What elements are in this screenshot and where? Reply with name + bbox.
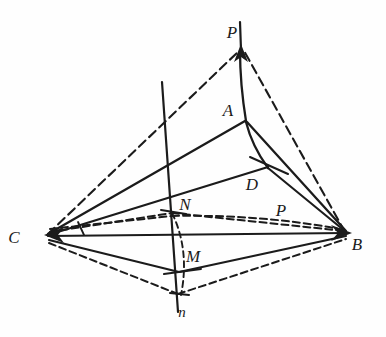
- label-C: C: [8, 228, 20, 247]
- figure-canvas: P A D P N M n C B: [0, 0, 386, 337]
- label-A: A: [222, 101, 234, 120]
- label-D: D: [245, 175, 259, 194]
- label-P-lower: P: [275, 201, 286, 220]
- geometry-figure: P A D P N M n C B: [0, 0, 386, 337]
- label-N: N: [178, 195, 192, 214]
- edge-C-to-B: [48, 233, 346, 236]
- edge-B-to-P-top: [243, 49, 345, 232]
- label-P-top: P: [226, 23, 237, 42]
- edge-C-to-M: [49, 240, 179, 272]
- label-B: B: [352, 235, 363, 254]
- tick-mark-n: [170, 293, 189, 295]
- edge-A-to-P-top: [240, 50, 246, 121]
- edge-A-to-B: [247, 122, 346, 231]
- edge-D-to-B: [268, 168, 346, 232]
- label-M: M: [185, 247, 201, 266]
- label-n: n: [178, 304, 186, 320]
- edge-C-to-n: [49, 243, 178, 294]
